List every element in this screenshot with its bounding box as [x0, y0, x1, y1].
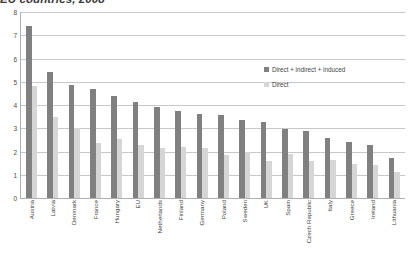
x-tick-label: Greece — [348, 200, 354, 220]
bar-chart: EU countries, 2008 012345678 AustriaLatv… — [0, 0, 409, 256]
bar — [394, 172, 400, 198]
y-tick-label: 4 — [13, 102, 17, 109]
bar-group — [85, 12, 106, 198]
bar-groups — [21, 12, 405, 198]
y-tick-label: 7 — [13, 32, 17, 39]
bar-group — [192, 12, 213, 198]
x-tick-cell: Austria — [21, 200, 42, 256]
bar-group — [149, 12, 170, 198]
bar — [53, 117, 59, 198]
x-tick-label: Spain — [284, 200, 290, 216]
bar-group — [362, 12, 383, 198]
bar — [160, 148, 166, 198]
legend-swatch — [264, 67, 269, 72]
x-tick-label: Lithuania — [391, 200, 397, 225]
x-tick-label: UK — [263, 200, 269, 209]
x-tick-label: Hungary — [114, 200, 120, 223]
y-tick-label: 3 — [13, 125, 17, 132]
bar — [245, 152, 251, 199]
x-tick-cell: France — [85, 200, 106, 256]
x-tick-cell: UK — [256, 200, 277, 256]
bar-group — [256, 12, 277, 198]
x-tick-label: Finland — [178, 200, 184, 220]
x-tick-label: Netherlands — [157, 200, 163, 233]
bar-group — [42, 12, 63, 198]
x-tick-label: Latvia — [50, 200, 56, 217]
y-tick-label: 0 — [13, 195, 17, 202]
x-tick-cell: Greece — [341, 200, 362, 256]
bar — [352, 164, 358, 198]
y-tick-label: 5 — [13, 78, 17, 85]
bar — [309, 161, 315, 198]
x-tick-cell: Hungary — [106, 200, 127, 256]
bar-group — [234, 12, 255, 198]
x-tick-label: EU — [135, 200, 141, 209]
x-tick-cell: Finland — [170, 200, 191, 256]
x-tick-label: Sweden — [242, 200, 248, 222]
legend-item[interactable]: Direct — [264, 81, 384, 88]
x-tick-label: Germany — [199, 200, 205, 225]
x-tick-label: Czech Republic — [306, 200, 312, 243]
bar-group — [384, 12, 405, 198]
bar-group — [298, 12, 319, 198]
legend-item[interactable]: Direct + indirect + induced — [264, 66, 384, 73]
x-tick-cell: Lithuania — [384, 200, 405, 256]
x-tick-cell: Italy — [320, 200, 341, 256]
bar-group — [64, 12, 85, 198]
y-tick-label: 1 — [13, 171, 17, 178]
x-tick-cell: Germany — [192, 200, 213, 256]
bar — [117, 139, 123, 198]
y-axis-tick-labels: 012345678 — [0, 12, 20, 198]
x-tick-label: Ireland — [370, 200, 376, 219]
bar — [224, 155, 230, 198]
bar-group — [320, 12, 341, 198]
bar — [202, 148, 208, 198]
bar — [74, 128, 80, 198]
bar — [96, 143, 102, 198]
bar — [288, 154, 294, 198]
chart-title: EU countries, 2008 — [0, 0, 200, 7]
x-tick-label: Poland — [221, 200, 227, 219]
bar — [32, 86, 38, 198]
bar-group — [106, 12, 127, 198]
bar-group — [21, 12, 42, 198]
x-tick-label: Italy — [327, 200, 333, 211]
x-tick-cell: Latvia — [42, 200, 63, 256]
bar-group — [170, 12, 191, 198]
chart-legend: Direct + indirect + inducedDirect — [264, 66, 384, 96]
x-tick-label: France — [93, 200, 99, 219]
bar — [373, 165, 379, 198]
bar-group — [341, 12, 362, 198]
x-axis-tick-labels: AustriaLatviaDenmarkFranceHungaryEUNethe… — [21, 200, 405, 256]
x-tick-label: Austria — [29, 200, 35, 219]
legend-label: Direct + indirect + induced — [272, 66, 345, 73]
x-tick-cell: Czech Republic — [298, 200, 319, 256]
legend-label: Direct — [272, 81, 288, 88]
x-tick-label: Denmark — [71, 200, 77, 225]
x-tick-cell: Spain — [277, 200, 298, 256]
y-tick-label: 6 — [13, 55, 17, 62]
legend-swatch — [264, 82, 269, 87]
x-tick-cell: Denmark — [64, 200, 85, 256]
x-tick-cell: Poland — [213, 200, 234, 256]
bar-group — [277, 12, 298, 198]
bar — [181, 147, 187, 198]
bar-group — [128, 12, 149, 198]
gridline — [20, 198, 405, 199]
x-tick-cell: Ireland — [362, 200, 383, 256]
bar — [138, 145, 144, 198]
x-tick-cell: Netherlands — [149, 200, 170, 256]
x-tick-cell: EU — [128, 200, 149, 256]
bar — [330, 160, 336, 198]
y-tick-label: 2 — [13, 148, 17, 155]
y-tick-label: 8 — [13, 9, 17, 16]
x-tick-cell: Sweden — [234, 200, 255, 256]
bar-group — [213, 12, 234, 198]
bar — [266, 161, 272, 198]
